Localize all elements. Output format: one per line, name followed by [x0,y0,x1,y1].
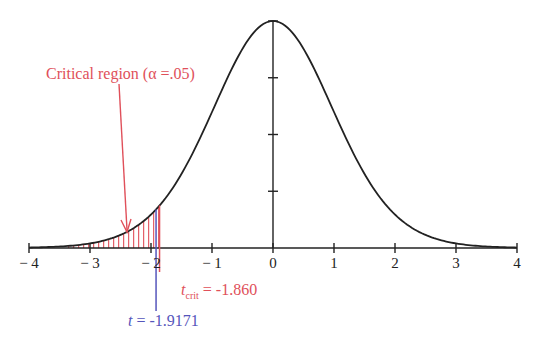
t-statistic-label: t = -1.9171 [128,312,199,330]
x-tick-label: − 2 [141,255,161,272]
x-tick-label: 3 [452,255,460,272]
t-statistic-value: = -1.9171 [132,312,198,329]
t-crit-subscript: crit [185,290,198,301]
x-tick-label: − 3 [80,255,100,272]
critical-region-arrow [119,84,127,230]
t-distribution-chart: − 4 − 3 − 2 − 1 0 1 2 3 4 Critical regio… [0,0,556,341]
t-crit-label: tcrit = -1.860 [181,281,257,301]
plot-area [0,0,556,341]
x-tick-label: 2 [391,255,399,272]
t-crit-value: = -1.860 [199,281,257,298]
x-tick-label: − 4 [19,255,39,272]
x-tick-label: − 1 [202,255,222,272]
x-tick-label: 1 [330,255,338,272]
x-tick-label: 0 [269,255,277,272]
critical-region-label: Critical region (α =.05) [46,65,195,83]
x-tick-label: 4 [513,255,521,272]
